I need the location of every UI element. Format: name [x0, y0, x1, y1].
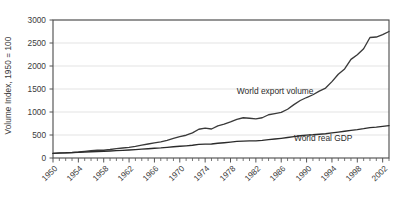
chart-figure: Volume Index, 1950 = 100 050010001500200…: [0, 0, 404, 199]
series-label-2: World real GDP: [294, 133, 353, 143]
series-label-1: World export volume: [237, 86, 314, 96]
plot-canvas: [0, 0, 404, 199]
